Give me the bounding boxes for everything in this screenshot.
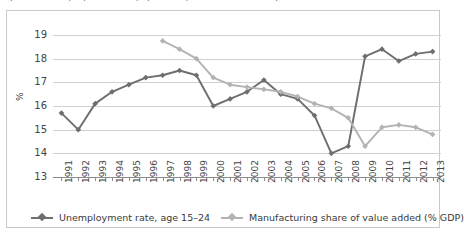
y-tick-label: 14 [21, 148, 47, 158]
data-point-marker [413, 51, 419, 57]
data-point-marker [227, 96, 233, 102]
x-tick [146, 177, 147, 181]
x-tick [382, 177, 383, 181]
y-tick-label: 15 [21, 125, 47, 135]
data-point-marker [261, 87, 267, 93]
series-line-0 [61, 49, 432, 153]
data-point-marker [143, 75, 149, 81]
legend-label: Manufacturing share of value added (% GD… [249, 211, 464, 225]
x-tick [61, 177, 62, 181]
series-plot-area [53, 35, 441, 177]
y-tick-label: 18 [21, 54, 47, 64]
legend-label: Unemployment rate, age 15–24 [59, 211, 210, 225]
clipped-figure-title: Figure 3. Unemployment rate (age 15–24) … [0, 0, 447, 1]
x-tick [331, 177, 332, 181]
data-point-marker [430, 132, 436, 138]
x-tick [298, 177, 299, 181]
chart-legend: Unemployment rate, age 15–24Manufacturin… [31, 211, 441, 229]
data-point-marker [227, 82, 233, 88]
chart-panel: % 13141516171819 19911992199319941995199… [6, 10, 440, 228]
data-point-marker [396, 122, 402, 128]
x-tick [129, 177, 130, 181]
x-tick [416, 177, 417, 181]
data-point-marker [312, 101, 318, 107]
x-tick [433, 177, 434, 181]
y-axis-title: % [15, 92, 25, 101]
legend-marker-icon [228, 213, 236, 221]
x-tick [281, 177, 282, 181]
data-point-marker [244, 84, 250, 90]
legend-marker-icon [38, 213, 46, 221]
x-tick [365, 177, 366, 181]
x-tick [213, 177, 214, 181]
x-tick [180, 177, 181, 181]
x-tick [163, 177, 164, 181]
y-tick-label: 17 [21, 77, 47, 87]
x-tick [314, 177, 315, 181]
x-tick [112, 177, 113, 181]
x-tick [348, 177, 349, 181]
data-point-marker [329, 151, 335, 157]
x-tick [196, 177, 197, 181]
y-tick-label: 19 [21, 30, 47, 40]
x-tick [230, 177, 231, 181]
data-point-marker [345, 143, 351, 149]
data-point-marker [362, 53, 368, 59]
y-tick-label: 16 [21, 101, 47, 111]
x-tick [399, 177, 400, 181]
data-point-marker [177, 68, 183, 74]
y-tick-label: 13 [21, 172, 47, 182]
x-tick [247, 177, 248, 181]
x-tick [264, 177, 265, 181]
data-point-marker [413, 124, 419, 130]
data-point-marker [430, 49, 436, 55]
data-point-marker [160, 72, 166, 78]
x-tick [95, 177, 96, 181]
x-tick [78, 177, 79, 181]
data-point-marker [126, 82, 132, 88]
